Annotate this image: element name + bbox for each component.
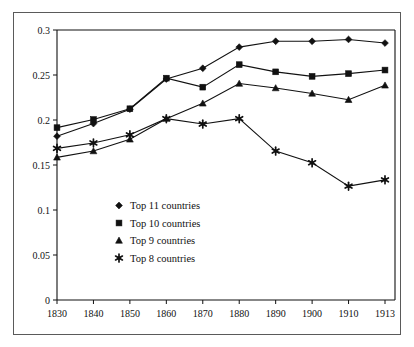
data-point-marker (163, 75, 169, 81)
y-axis-ticks: 00.050.10.150.20.250.3 (33, 25, 58, 306)
x-tick-label: 1910 (339, 308, 359, 319)
legend-marker-asterisk (116, 254, 123, 262)
legend-marker-square (116, 220, 122, 226)
x-axis-ticks: 1830184018501860187018801890190019101913 (47, 300, 395, 319)
line-chart[interactable]: 00.050.10.150.20.250.3 18301840185018601… (14, 13, 400, 334)
x-tick-label: 1840 (83, 308, 103, 319)
data-point-marker (199, 100, 206, 106)
x-tick-label: 1880 (229, 308, 249, 319)
data-point-marker (273, 69, 279, 75)
series-3 (54, 80, 389, 160)
chart-series-group (54, 36, 389, 190)
data-point-marker (91, 117, 97, 123)
legend-label: Top 10 countries (130, 218, 200, 229)
y-tick-label: 0.15 (33, 160, 51, 171)
legend-label: Top 8 countries (130, 253, 195, 264)
data-point-marker (272, 38, 279, 45)
figure-container: 00.050.10.150.20.250.3 18301840185018601… (0, 0, 414, 347)
data-point-marker (236, 44, 243, 51)
x-tick-label: 1890 (266, 308, 286, 319)
data-point-marker (309, 38, 316, 45)
chart-axes (57, 30, 395, 300)
x-tick-label: 1850 (120, 308, 140, 319)
y-tick-label: 0.2 (38, 115, 51, 126)
series-line (57, 84, 385, 158)
series-2 (54, 62, 388, 131)
legend-label: Top 11 countries (130, 200, 200, 211)
data-point-marker (382, 67, 388, 73)
data-point-marker (382, 40, 389, 47)
y-tick-label: 0.3 (38, 25, 51, 36)
data-point-marker (54, 125, 60, 131)
data-point-marker (54, 133, 61, 140)
x-tick-label: 1860 (156, 308, 176, 319)
y-tick-label: 0.1 (38, 205, 51, 216)
legend-marker-diamond (116, 202, 123, 209)
data-point-marker (345, 36, 352, 43)
data-point-marker (382, 82, 389, 88)
y-tick-label: 0.05 (33, 250, 51, 261)
data-point-marker (346, 71, 352, 77)
data-point-marker (236, 80, 243, 86)
legend-marker-triangle (116, 237, 123, 243)
data-point-marker (236, 62, 242, 68)
data-point-marker (200, 84, 206, 90)
x-tick-label: 1913 (375, 308, 395, 319)
legend-label: Top 9 countries (130, 235, 195, 246)
x-tick-label: 1900 (302, 308, 322, 319)
series-line (57, 119, 385, 186)
x-tick-label: 1830 (47, 308, 67, 319)
y-tick-label: 0.25 (33, 70, 51, 81)
data-point-marker (199, 65, 206, 72)
chart-legend: Top 11 countriesTop 10 countriesTop 9 co… (116, 200, 201, 264)
y-tick-label: 0 (45, 295, 50, 306)
chart-plot-frame: 00.050.10.150.20.250.3 18301840185018601… (13, 12, 401, 335)
data-point-marker (309, 159, 316, 167)
x-tick-label: 1870 (193, 308, 213, 319)
series-1 (54, 36, 389, 140)
data-point-marker (309, 73, 315, 79)
data-point-marker (127, 106, 133, 112)
series-4 (54, 115, 389, 190)
